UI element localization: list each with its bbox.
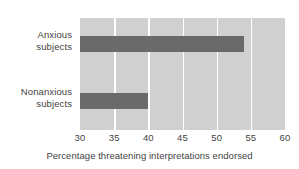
category-label-nonanxious-subjects: Nonanxious subjects <box>0 86 72 109</box>
x-tick-label-30: 30 <box>67 132 93 144</box>
gridline-45 <box>183 18 185 130</box>
x-tick-label-60: 60 <box>272 132 298 144</box>
category-label-line2: subjects <box>0 98 72 110</box>
category-label-line1: Anxious <box>0 29 72 41</box>
x-tick-label-45: 45 <box>170 132 196 144</box>
x-tick-label-35: 35 <box>101 132 127 144</box>
category-label-line1: Nonanxious <box>0 86 72 98</box>
x-tick-label-55: 55 <box>238 132 264 144</box>
category-axis-labels: Anxious subjects Nonanxious subjects <box>0 18 76 130</box>
gridline-50 <box>217 18 219 130</box>
x-axis-title: Percentage threatening interpretations e… <box>0 150 299 162</box>
category-label-line2: subjects <box>0 41 72 53</box>
plot-area <box>80 18 285 130</box>
x-tick-label-40: 40 <box>135 132 161 144</box>
x-tick-label-50: 50 <box>204 132 230 144</box>
bar-nonanxious-subjects <box>80 93 148 109</box>
gridline-35 <box>114 18 116 130</box>
gridline-40 <box>148 18 150 130</box>
bar-chart-figure: Anxious subjects Nonanxious subjects 303… <box>0 0 299 169</box>
gridline-55 <box>251 18 253 130</box>
category-label-anxious-subjects: Anxious subjects <box>0 29 72 52</box>
x-axis-tick-labels: 30354045505560 <box>80 132 285 146</box>
bar-anxious-subjects <box>80 36 244 52</box>
